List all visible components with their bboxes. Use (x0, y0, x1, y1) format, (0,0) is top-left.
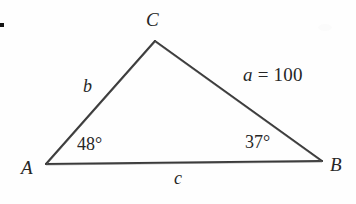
side-a-value: 100 (274, 64, 303, 85)
vertex-label-c: C (146, 10, 159, 29)
side-a-equals: = (258, 64, 269, 85)
triangle-figure: C A B b c a = 100 48° 37° (0, 0, 356, 204)
side-label-a: a = 100 (243, 65, 303, 84)
side-label-b: b (83, 77, 92, 95)
side-a-line-soft (155, 42, 322, 162)
side-a-line (155, 41, 322, 161)
side-label-c: c (174, 169, 182, 187)
angle-label-at-b: 37° (245, 133, 270, 151)
side-a-variable: a (243, 64, 253, 85)
vertex-label-b: B (330, 155, 342, 174)
angle-label-at-a: 48° (77, 135, 102, 153)
vertex-label-a: A (21, 158, 33, 177)
